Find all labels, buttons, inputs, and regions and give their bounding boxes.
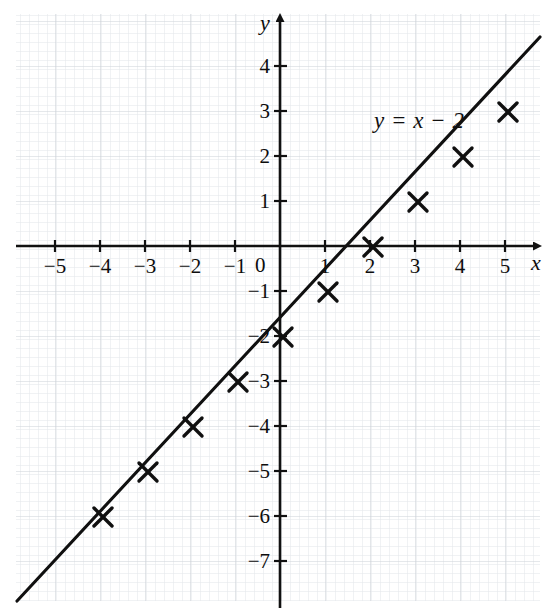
x-axis-label: x bbox=[531, 252, 541, 274]
y-tick-label: −7 bbox=[248, 551, 270, 572]
x-tick-label: −1 bbox=[224, 256, 246, 277]
y-tick-label: 2 bbox=[260, 146, 271, 167]
x-tick-label: 1 bbox=[320, 256, 331, 277]
y-tick-label: −3 bbox=[248, 371, 270, 392]
x-tick-label: 3 bbox=[410, 256, 421, 277]
x-tick-label: −4 bbox=[89, 256, 111, 277]
equation-annotation: y = x − 2 bbox=[374, 109, 464, 132]
x-tick-label: 4 bbox=[455, 256, 466, 277]
y-tick-label: 4 bbox=[260, 56, 271, 77]
y-tick-label: −2 bbox=[248, 326, 270, 347]
graph-figure: −5 −4 −3 −2 −1 1 2 3 4 5 0 4 3 2 1 −1 −2… bbox=[0, 0, 556, 616]
y-tick-label: −6 bbox=[248, 506, 270, 527]
x-tick-label: −5 bbox=[44, 256, 66, 277]
plot-area bbox=[0, 0, 556, 616]
y-tick-label: −4 bbox=[248, 416, 270, 437]
x-tick-label: −3 bbox=[134, 256, 156, 277]
y-tick-label: −5 bbox=[248, 461, 270, 482]
y-axis-label: y bbox=[260, 12, 270, 34]
grid-background bbox=[16, 14, 540, 601]
origin-label: 0 bbox=[255, 255, 266, 276]
y-tick-label: 1 bbox=[260, 191, 271, 212]
y-tick-label: 3 bbox=[260, 101, 271, 122]
x-tick-label: 2 bbox=[365, 256, 376, 277]
x-tick-label: 5 bbox=[500, 256, 511, 277]
x-tick-label: −2 bbox=[179, 256, 201, 277]
y-tick-label: −1 bbox=[248, 281, 270, 302]
